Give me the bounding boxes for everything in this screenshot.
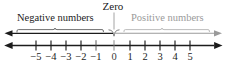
tick-label: 4 xyxy=(167,52,183,63)
positive-numbers-label: Positive numbers xyxy=(131,13,204,24)
tick-label: 5 xyxy=(182,52,198,63)
tick-label: −1 xyxy=(88,52,104,63)
axis-right-arrowhead-icon xyxy=(214,42,222,49)
negative-numbers-label: Negative numbers xyxy=(17,13,94,24)
tick-label: 3 xyxy=(152,52,168,63)
tick-label: −2 xyxy=(73,52,89,63)
tick-label: −4 xyxy=(43,52,59,63)
negative-brace xyxy=(17,28,103,33)
tick-label: 1 xyxy=(122,52,138,63)
axis-left-arrowhead-icon xyxy=(4,42,12,49)
tick-label: 2 xyxy=(137,52,153,63)
zero-label: Zero xyxy=(0,1,227,12)
tick-label: 0 xyxy=(106,52,122,63)
positive-arrowhead-icon xyxy=(214,30,222,36)
number-line-figure: Zero Negative numbers Positive numbers −… xyxy=(0,0,228,66)
negative-arrowhead-icon xyxy=(5,30,13,36)
tick-label: −5 xyxy=(28,52,44,63)
positive-brace xyxy=(124,28,209,32)
tick-label: −3 xyxy=(58,52,74,63)
